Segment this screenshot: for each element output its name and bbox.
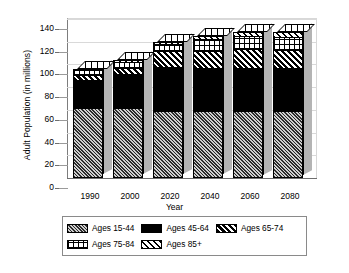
axis-depth-step [59, 120, 68, 121]
bar-segment-ages-75-84 [153, 44, 183, 51]
legend-swatch [141, 224, 162, 233]
bar-segment-ages-15-44 [193, 112, 223, 178]
bar-front-face [193, 36, 223, 178]
bar-side-face [143, 51, 152, 174]
axis-depth-step [59, 165, 68, 166]
legend-row: Ages 15-44Ages 45-64Ages 65-74 [67, 220, 302, 236]
y-tick-label: 0 [20, 183, 54, 191]
axis-depth-step [59, 143, 68, 144]
plot-area: 020406080100120140 199020002020204020602… [59, 18, 317, 188]
bar-2060 [233, 32, 263, 179]
bar-segment-ages-75-84 [73, 70, 103, 75]
bar-segment-ages-65-74 [193, 51, 223, 68]
bar-segment-ages-75-84 [273, 37, 303, 49]
bar-segment-ages-65-74 [113, 68, 143, 74]
y-tick-label: 40 [20, 138, 54, 146]
legend-item-ages-85[interactable]: Ages 85+ [141, 239, 201, 249]
stacked-bar-chart: Adult Population (in millions) 020406080… [0, 0, 349, 273]
y-tick-label: 20 [20, 160, 54, 168]
bar-2040 [193, 36, 223, 178]
legend-swatch [67, 224, 88, 233]
legend-swatch [216, 224, 237, 233]
bar-segment-ages-85 [193, 36, 223, 39]
y-tick-label: 80 [20, 92, 54, 100]
bar-segment-ages-45-64 [113, 74, 143, 109]
bar-2080 [273, 32, 303, 179]
x-tick-label: 1990 [68, 191, 112, 201]
bar-segment-ages-45-64 [73, 80, 103, 108]
bar-2020 [153, 42, 183, 178]
chart-legend: Ages 15-44Ages 45-64Ages 65-74 Ages 75-8… [62, 216, 307, 256]
bar-front-face [113, 60, 143, 178]
y-tick-mark [55, 74, 59, 75]
bar-segment-ages-75-84 [233, 36, 263, 48]
y-tick-mark [55, 188, 59, 189]
x-tick-label: 2040 [188, 191, 232, 201]
axis-depth-step [59, 97, 68, 98]
bar-segment-ages-45-64 [153, 67, 183, 112]
bar-front-face [233, 32, 263, 179]
legend-item-ages-15-44[interactable]: Ages 15-44 [67, 223, 134, 233]
x-tick-label: 2080 [268, 191, 312, 201]
bar-2000 [113, 60, 143, 178]
bar-segment-ages-45-64 [233, 68, 263, 112]
gridline [67, 178, 317, 179]
bar-segment-ages-15-44 [73, 109, 103, 178]
legend-label: Ages 45-64 [166, 223, 208, 233]
legend-label: Ages 65-74 [241, 223, 283, 233]
legend-item-ages-75-84[interactable]: Ages 75-84 [67, 239, 134, 249]
x-tick-label: 2020 [148, 191, 192, 201]
axis-depth-step [59, 52, 68, 53]
legend-label: Ages 15-44 [92, 223, 134, 233]
bar-front-face [153, 42, 183, 178]
y-tick-label: 120 [20, 47, 54, 55]
bar-segment-ages-85 [73, 69, 103, 70]
axis-depth-step [59, 74, 68, 75]
bar-front-face [273, 32, 303, 179]
bar-segment-ages-15-44 [233, 112, 263, 178]
y-tick-mark [55, 52, 59, 53]
bar-side-face [183, 33, 192, 174]
y-tick-mark [55, 97, 59, 98]
bar-1990 [73, 69, 103, 178]
bar-segment-ages-85 [233, 32, 263, 37]
bar-side-face [303, 23, 312, 174]
bar-segment-ages-65-74 [273, 50, 303, 68]
legend-label: Ages 75-84 [92, 239, 134, 249]
y-tick-label: 60 [20, 115, 54, 123]
legend-label: Ages 85+ [166, 239, 201, 249]
legend-item-ages-45-64[interactable]: Ages 45-64 [141, 223, 208, 233]
bar-segment-ages-65-74 [73, 75, 103, 81]
bar-segment-ages-65-74 [233, 49, 263, 68]
x-tick-label: 2060 [228, 191, 272, 201]
bar-segment-ages-45-64 [273, 68, 303, 112]
bar-side-face [223, 27, 232, 174]
y-tick-label: 140 [20, 24, 54, 32]
bar-side-face [103, 60, 112, 174]
y-tick-mark [55, 143, 59, 144]
bar-segment-ages-65-74 [153, 51, 183, 67]
axis-depth-step [59, 188, 68, 189]
bar-segment-ages-15-44 [113, 109, 143, 178]
bar-front-face [73, 69, 103, 178]
axis-depth-step [59, 29, 68, 30]
legend-item-ages-65-74[interactable]: Ages 65-74 [216, 223, 283, 233]
bar-segment-ages-85 [113, 60, 143, 62]
legend-swatch [67, 240, 88, 249]
bar-segment-ages-85 [273, 32, 303, 38]
legend-swatch [141, 240, 162, 249]
bar-segment-ages-15-44 [273, 112, 303, 178]
legend-row: Ages 75-84Ages 85+ [67, 236, 302, 252]
gridline [67, 19, 317, 20]
bar-side-face [263, 23, 272, 174]
y-tick-label: 100 [20, 69, 54, 77]
bar-segment-ages-75-84 [193, 39, 223, 50]
bar-segment-ages-85 [153, 42, 183, 44]
bar-segment-ages-75-84 [113, 62, 143, 68]
bar-segment-ages-45-64 [193, 68, 223, 112]
x-axis-title: Year [0, 202, 349, 212]
y-tick-mark [55, 29, 59, 30]
y-tick-mark [55, 120, 59, 121]
bar-segment-ages-15-44 [153, 112, 183, 178]
y-tick-mark [55, 165, 59, 166]
